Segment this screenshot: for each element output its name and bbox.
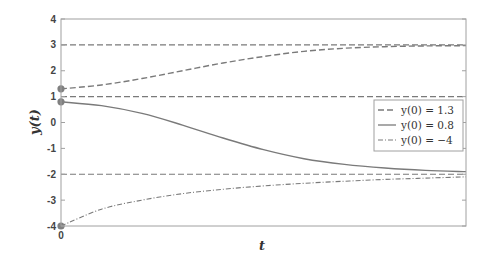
- series-line: [61, 46, 466, 89]
- chart: -4-3-2-101234 0 t y(t) y(0) = 1.3 y(0) =…: [0, 0, 492, 269]
- y-tick-label: -3: [47, 195, 56, 206]
- y-tick-label: -4: [47, 221, 56, 232]
- legend-entry-2: y(0) = 0.8: [400, 119, 454, 131]
- y-axis-label: y(t): [27, 109, 42, 136]
- x-axis-ticks: 0: [58, 230, 64, 241]
- y-tick-label: 0: [50, 117, 56, 128]
- legend-entry-1: y(0) = 1.3: [400, 104, 454, 116]
- y-tick-label: 2: [50, 65, 56, 76]
- x-tick-label: 0: [58, 230, 64, 241]
- y-tick-label: -2: [47, 169, 56, 180]
- y-tick-label: 3: [50, 39, 56, 50]
- series-line: [61, 177, 466, 226]
- y-tick-label: -1: [47, 143, 56, 154]
- x-axis-label: t: [259, 238, 265, 253]
- legend-entry-3: y(0) = −4: [400, 134, 453, 146]
- y-tick-label: 4: [50, 14, 56, 25]
- y-tick-label: 1: [50, 91, 56, 102]
- legend: y(0) = 1.3 y(0) = 0.8 y(0) = −4: [374, 100, 463, 151]
